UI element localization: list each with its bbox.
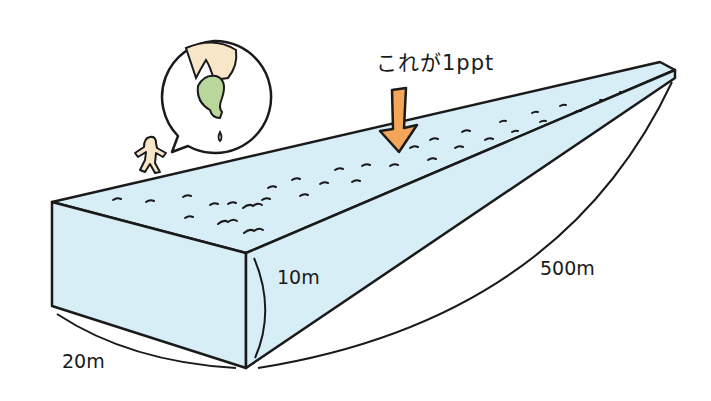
annotation-label: これが1ppt — [376, 46, 494, 76]
water-block-illustration — [0, 0, 711, 401]
diagram-canvas: これが1ppt 10m 20m 500m — [0, 0, 711, 401]
water-drop-icon — [219, 132, 222, 141]
speech-bubble — [162, 41, 271, 153]
width-label: 20m — [62, 350, 105, 372]
length-label: 500m — [540, 257, 595, 279]
person-icon — [135, 137, 166, 173]
height-label: 10m — [277, 266, 320, 288]
